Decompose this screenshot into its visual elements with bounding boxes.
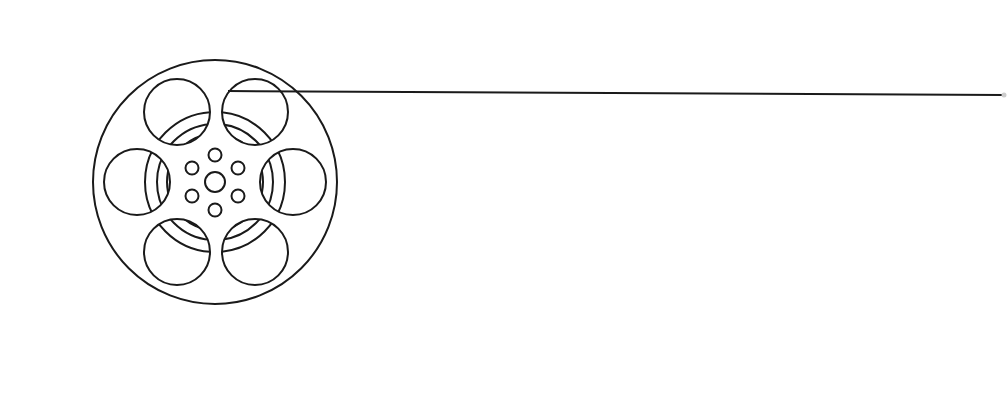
reel-hub [205, 172, 225, 192]
film-strip-end [1002, 93, 1007, 98]
reel-hole-left [104, 112, 285, 252]
reel-small-holes [186, 149, 245, 217]
film-reel-icon [0, 0, 1007, 413]
reel-outer-rim [93, 60, 337, 304]
reel-hole-right [145, 112, 326, 252]
film-reel-illustration [0, 0, 1007, 413]
film-strip-line [228, 91, 1003, 95]
